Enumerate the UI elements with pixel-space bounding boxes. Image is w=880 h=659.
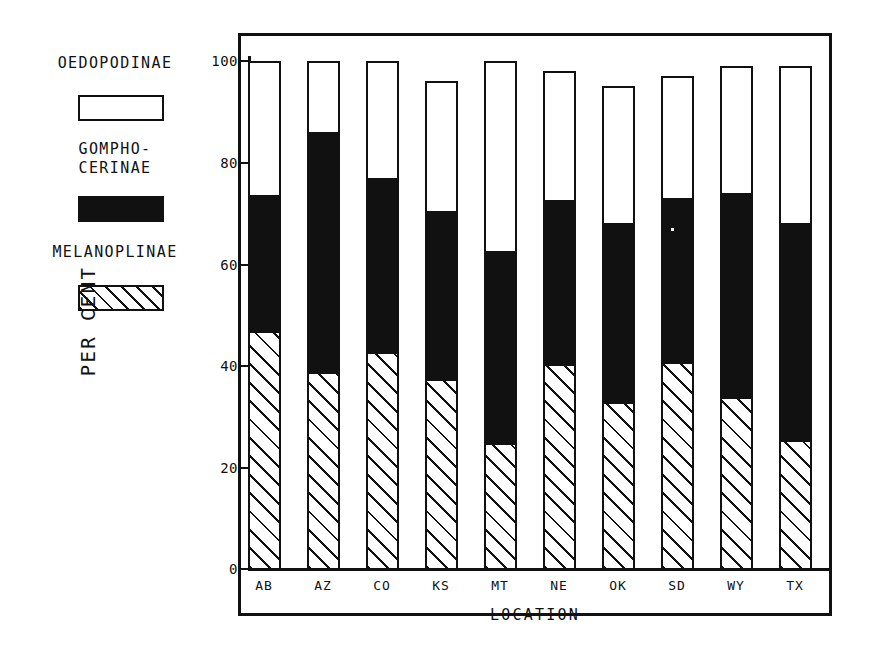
segment-oedopodinae-ne <box>543 71 576 200</box>
segment-oedopodinae-ok <box>602 86 635 223</box>
x-tick-label-ab: AB <box>234 578 294 593</box>
scan-artifact-speck <box>671 228 674 231</box>
segment-melanoplinae-ne <box>543 365 576 568</box>
segment-oedopodinae-ab <box>248 61 281 195</box>
segment-melanoplinae-ks <box>425 380 458 568</box>
segment-divider-wy <box>720 397 753 399</box>
segment-divider-az <box>307 372 340 374</box>
segment-oedopodinae-tx <box>779 66 812 223</box>
segment-divider-ab <box>248 331 281 333</box>
chart-canvas: OEDOPODINAE GOMPHO- CERINAE MELANOPLINAE… <box>0 0 880 659</box>
segment-melanoplinae-az <box>307 373 340 568</box>
segment-melanoplinae-ab <box>248 332 281 568</box>
segment-melanoplinae-ok <box>602 403 635 568</box>
segment-divider-ok <box>602 402 635 404</box>
x-tick-label-wy: WY <box>706 578 766 593</box>
segment-gomphocerinae-ne <box>543 200 576 365</box>
segment-divider-tx <box>779 440 812 442</box>
bar-series-group: ABAZCOKSMTNEOKSDWYTX <box>0 0 880 659</box>
segment-gomphocerinae-wy <box>720 193 753 398</box>
segment-gomphocerinae-ab <box>248 195 281 332</box>
segment-oedopodinae-wy <box>720 66 753 193</box>
segment-gomphocerinae-mt <box>484 251 517 444</box>
segment-gomphocerinae-ks <box>425 211 458 381</box>
x-tick-label-tx: TX <box>765 578 825 593</box>
segment-divider-co <box>366 352 399 354</box>
segment-gomphocerinae-az <box>307 132 340 373</box>
segment-gomphocerinae-co <box>366 178 399 353</box>
segment-melanoplinae-co <box>366 353 399 568</box>
segment-oedopodinae-co <box>366 61 399 178</box>
x-tick-label-sd: SD <box>647 578 707 593</box>
segment-divider-ks <box>425 379 458 381</box>
segment-melanoplinae-mt <box>484 444 517 568</box>
segment-melanoplinae-sd <box>661 363 694 568</box>
segment-melanoplinae-tx <box>779 441 812 568</box>
segment-divider-mt <box>484 443 517 445</box>
x-tick-label-co: CO <box>352 578 412 593</box>
segment-gomphocerinae-ok <box>602 223 635 403</box>
segment-gomphocerinae-tx <box>779 223 812 441</box>
x-tick-label-az: AZ <box>293 578 353 593</box>
segment-divider-ne <box>543 364 576 366</box>
segment-gomphocerinae-sd <box>661 198 694 363</box>
x-tick-label-mt: MT <box>470 578 530 593</box>
segment-oedopodinae-az <box>307 61 340 132</box>
segment-melanoplinae-wy <box>720 398 753 568</box>
x-tick-label-ok: OK <box>588 578 648 593</box>
segment-oedopodinae-sd <box>661 76 694 198</box>
segment-oedopodinae-mt <box>484 61 517 251</box>
x-tick-label-ks: KS <box>411 578 471 593</box>
segment-divider-sd <box>661 362 694 364</box>
segment-oedopodinae-ks <box>425 81 458 210</box>
x-tick-label-ne: NE <box>529 578 589 593</box>
